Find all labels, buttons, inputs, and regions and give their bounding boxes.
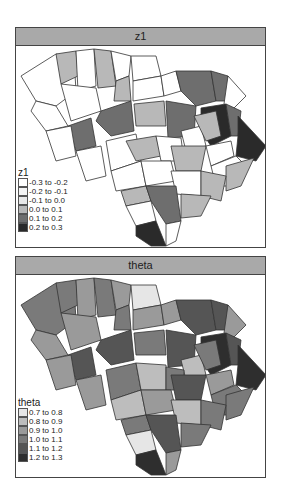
legend-item: 1.1 to 1.2 (18, 444, 62, 453)
legend-swatch (18, 408, 28, 417)
legend-swatch (18, 444, 28, 453)
legend-swatch (18, 417, 28, 426)
legend-swatch (18, 196, 28, 205)
legend-item: 0.9 to 1.0 (18, 426, 62, 435)
legend-item: -0.1 to 0.0 (18, 196, 68, 205)
legend-swatch (18, 214, 28, 223)
legend-swatch (18, 453, 28, 462)
panel-title-theta: theta (16, 257, 265, 275)
legend-item: 0.8 to 0.9 (18, 417, 62, 426)
legend-swatch (18, 223, 28, 232)
choropleth-map-theta: theta 0.7 to 0.8 0.8 to 0.9 0.9 to 1.0 1… (16, 275, 265, 478)
legend-item: 0.2 to 0.3 (18, 223, 68, 232)
legend-item: -0.2 to -0.1 (18, 187, 68, 196)
legend-swatch (18, 187, 28, 196)
choropleth-map-z1: z1 -0.3 to -0.2 -0.2 to -0.1 -0.1 to 0.0… (16, 46, 265, 248)
legend-item: 0.7 to 0.8 (18, 408, 62, 417)
legend-title: z1 (18, 167, 68, 178)
panel-title-z1: z1 (16, 28, 265, 46)
map-panel-z1: z1 (15, 27, 266, 248)
legend-item: 0.0 to 0.1 (18, 205, 68, 214)
legend-item: -0.3 to -0.2 (18, 178, 68, 187)
map-panel-theta: theta (15, 256, 266, 478)
legend-swatch (18, 435, 28, 444)
legend-title: theta (18, 397, 62, 408)
legend-swatch (18, 426, 28, 435)
legend-item: 1.2 to 1.3 (18, 453, 62, 462)
legend-item: 0.1 to 0.2 (18, 214, 68, 223)
legend-z1: z1 -0.3 to -0.2 -0.2 to -0.1 -0.1 to 0.0… (18, 167, 68, 232)
legend-theta: theta 0.7 to 0.8 0.8 to 0.9 0.9 to 1.0 1… (18, 397, 62, 462)
legend-swatch (18, 205, 28, 214)
legend-swatch (18, 178, 28, 187)
legend-item: 1.0 to 1.1 (18, 435, 62, 444)
